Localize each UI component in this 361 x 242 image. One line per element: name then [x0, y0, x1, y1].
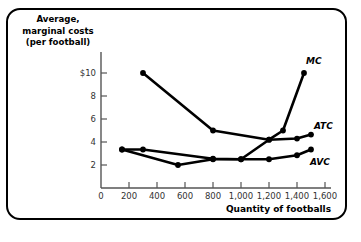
series-line-atc: [122, 135, 311, 160]
data-point-mc: [140, 70, 146, 76]
data-point-atc: [140, 147, 146, 153]
data-series-group: [119, 70, 314, 168]
y-tick-label: 4: [91, 137, 96, 147]
x-tick-label: 0: [98, 191, 103, 201]
series-label-avc: AVC: [309, 157, 330, 167]
data-point-avc: [294, 152, 300, 158]
data-point-avc: [266, 156, 272, 162]
figure-container: Average, marginal costs (per football) 2…: [0, 0, 361, 242]
x-tick-label: 200: [121, 191, 137, 201]
data-point-atc: [308, 132, 314, 138]
y-tick-label: 6: [91, 114, 96, 124]
series-label-mc: MC: [306, 56, 322, 66]
data-point-mc: [280, 128, 286, 134]
series-label-atc: ATC: [313, 121, 333, 131]
x-tick-label: 1,000: [229, 191, 253, 201]
data-point-avc: [119, 147, 125, 153]
x-tick-label: 800: [205, 191, 221, 201]
y-tick-label: $10: [80, 68, 96, 78]
axes: [101, 52, 331, 188]
y-tick-label: 2: [91, 160, 96, 170]
data-point-avc: [175, 162, 181, 168]
data-point-avc: [238, 156, 244, 162]
x-tick-label: 400: [149, 191, 165, 201]
series-line-avc: [122, 149, 311, 165]
data-point-atc: [294, 136, 300, 142]
x-tick-label: 1,600: [313, 191, 337, 201]
series-line-mc: [143, 73, 304, 140]
data-point-avc: [308, 147, 314, 153]
x-axis-title: Quantity of footballs: [226, 204, 331, 214]
data-point-mc: [210, 128, 216, 134]
x-tick-label: 600: [177, 191, 193, 201]
x-tick-label: 1,400: [285, 191, 309, 201]
data-point-avc: [210, 156, 216, 162]
chart-svg: 2468$10 02004006008001,0001,2001,4001,60…: [0, 0, 361, 242]
x-axis-ticks: 02004006008001,0001,2001,4001,600: [98, 182, 337, 201]
y-tick-label: 8: [91, 91, 96, 101]
data-point-atc: [266, 137, 272, 143]
data-point-mc: [301, 70, 307, 76]
x-tick-label: 1,200: [257, 191, 281, 201]
y-axis-ticks: 2468$10: [80, 68, 107, 170]
